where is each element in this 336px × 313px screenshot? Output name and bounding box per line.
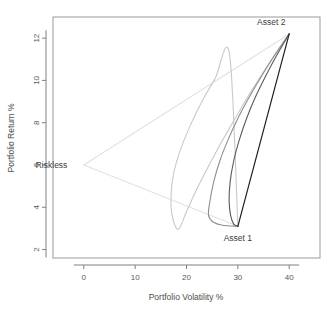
x-tick-label: 30 bbox=[233, 273, 242, 282]
x-axis: 010203040 bbox=[74, 265, 299, 282]
riskless-to-asset-1 bbox=[84, 165, 238, 226]
y-tick-label: 4 bbox=[33, 204, 42, 209]
label-riskless: Riskless bbox=[36, 160, 68, 170]
frontier-rho--1.0 bbox=[171, 34, 289, 230]
y-tick-label: 2 bbox=[33, 247, 42, 252]
label-asset-1: Asset 1 bbox=[224, 233, 253, 243]
chart-canvas: 010203040 24681012 Asset 2Asset 1Riskles… bbox=[0, 0, 336, 313]
riskless-to-asset-2 bbox=[84, 34, 289, 165]
frontier-curves-group bbox=[171, 34, 289, 230]
y-tick-label: 12 bbox=[33, 33, 42, 42]
x-tick-label: 40 bbox=[285, 273, 294, 282]
plot-frame-group bbox=[53, 17, 320, 258]
y-tick-label: 10 bbox=[33, 75, 42, 84]
point-labels-group: Asset 2Asset 1Riskless bbox=[36, 17, 286, 243]
frontier-rho-0.3 bbox=[229, 34, 289, 226]
x-axis-title: Portfolio Volatility % bbox=[149, 292, 224, 302]
y-tick-label: 8 bbox=[33, 120, 42, 125]
portfolio-frontier-chart: 010203040 24681012 Asset 2Asset 1Riskles… bbox=[0, 0, 336, 313]
riskless-lines-group bbox=[84, 34, 289, 226]
x-tick-label: 20 bbox=[182, 273, 191, 282]
x-tick-label: 0 bbox=[82, 273, 87, 282]
y-axis-title: Portfolio Return % bbox=[6, 103, 16, 172]
x-tick-label: 10 bbox=[131, 273, 140, 282]
y-axis: 24681012 bbox=[33, 30, 47, 257]
label-asset-2: Asset 2 bbox=[257, 17, 286, 27]
plot-frame bbox=[53, 17, 320, 258]
frontier-rho-1.0 bbox=[238, 34, 289, 226]
